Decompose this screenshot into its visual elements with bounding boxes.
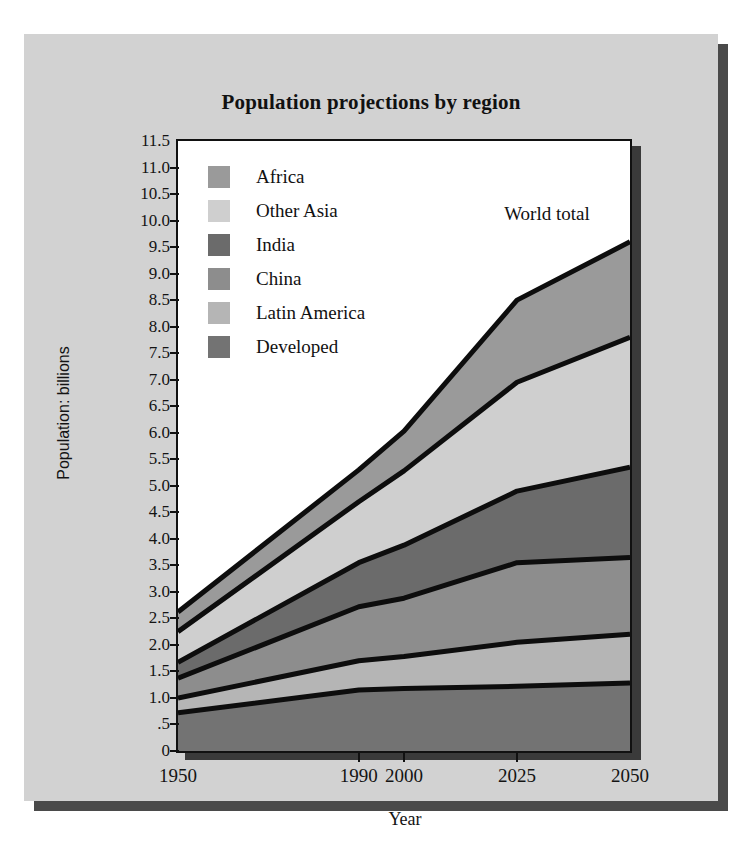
x-tick-label: 2050	[585, 765, 675, 787]
y-tick-label: 1.0	[110, 689, 170, 706]
x-tick-mark	[358, 753, 360, 762]
y-tick-mark	[170, 432, 179, 434]
x-axis-label: Year	[176, 809, 634, 830]
legend-item-label: India	[256, 234, 295, 256]
y-tick-mark	[170, 220, 179, 222]
y-tick-label: 9.5	[110, 238, 170, 255]
y-tick-mark	[170, 697, 179, 699]
y-tick-label: 11.5	[110, 132, 170, 149]
x-tick-mark	[516, 753, 518, 762]
y-tick-mark	[170, 750, 179, 752]
x-tick-mark	[403, 753, 405, 762]
y-tick-mark	[170, 193, 179, 195]
legend-swatch-icon	[208, 302, 230, 324]
y-tick-mark	[170, 246, 179, 248]
y-tick-label: 8.5	[110, 291, 170, 308]
y-tick-label: 11.0	[110, 159, 170, 176]
y-tick-label: 2.0	[110, 636, 170, 653]
y-tick-label: 1.5	[110, 662, 170, 679]
y-tick-label: 6.5	[110, 397, 170, 414]
y-tick-mark	[170, 379, 179, 381]
y-tick-mark	[170, 273, 179, 275]
y-tick-label: 7.5	[110, 344, 170, 361]
legend-item-latin-america[interactable]: Latin America	[208, 298, 365, 328]
y-tick-mark	[170, 326, 179, 328]
legend-item-label: Developed	[256, 336, 338, 358]
legend-swatch-icon	[208, 200, 230, 222]
legend-item-other-asia[interactable]: Other Asia	[208, 196, 365, 226]
y-tick-label: .5	[110, 715, 170, 732]
y-tick-label: 4.5	[110, 503, 170, 520]
y-tick-mark	[170, 670, 179, 672]
y-tick-label: 9.0	[110, 265, 170, 282]
legend-item-label: Latin America	[256, 302, 365, 324]
legend-swatch-icon	[208, 336, 230, 358]
legend-item-india[interactable]: India	[208, 230, 365, 260]
y-tick-mark	[170, 564, 179, 566]
y-tick-mark	[170, 299, 179, 301]
y-tick-mark	[170, 352, 179, 354]
chart-page: Population projections by region Populat…	[0, 0, 756, 850]
legend-item-label: Africa	[256, 166, 305, 188]
legend-swatch-icon	[208, 166, 230, 188]
y-tick-label: 8.0	[110, 318, 170, 335]
y-tick-label: 10.5	[110, 185, 170, 202]
legend-swatch-icon	[208, 234, 230, 256]
chart-card: Population projections by region Populat…	[24, 34, 718, 801]
legend-item-label: Other Asia	[256, 200, 338, 222]
x-tick-label: 2000	[359, 765, 449, 787]
x-tick-label: 1950	[133, 765, 223, 787]
legend-item-africa[interactable]: Africa	[208, 162, 365, 192]
y-tick-mark	[170, 511, 179, 513]
y-tick-mark	[170, 591, 179, 593]
y-tick-label: 7.0	[110, 371, 170, 388]
y-tick-label: 3.5	[110, 556, 170, 573]
legend-item-developed[interactable]: Developed	[208, 332, 365, 362]
y-tick-label: 0	[110, 742, 170, 759]
y-tick-label: 10.0	[110, 212, 170, 229]
y-tick-mark	[170, 617, 179, 619]
y-tick-mark	[170, 485, 179, 487]
y-tick-label: 5.0	[110, 477, 170, 494]
legend-item-china[interactable]: China	[208, 264, 365, 294]
y-tick-mark	[170, 405, 179, 407]
y-tick-mark	[170, 538, 179, 540]
annotation-world-total: World total	[504, 203, 590, 225]
y-tick-label: 4.0	[110, 530, 170, 547]
y-tick-label: 3.0	[110, 583, 170, 600]
y-tick-label: 2.5	[110, 609, 170, 626]
y-axis-label: Population: billions	[55, 313, 73, 513]
y-tick-label: 5.5	[110, 450, 170, 467]
legend-swatch-icon	[208, 268, 230, 290]
legend-item-label: China	[256, 268, 301, 290]
y-axis-tick-labels: 11.511.010.510.09.59.08.58.07.57.06.56.0…	[100, 34, 170, 801]
y-tick-mark	[170, 644, 179, 646]
y-tick-mark	[170, 167, 179, 169]
y-tick-mark	[170, 723, 179, 725]
y-tick-mark	[170, 458, 179, 460]
x-tick-label: 2025	[472, 765, 562, 787]
y-tick-label: 6.0	[110, 424, 170, 441]
chart-legend: AfricaOther AsiaIndiaChinaLatin AmericaD…	[208, 162, 365, 366]
